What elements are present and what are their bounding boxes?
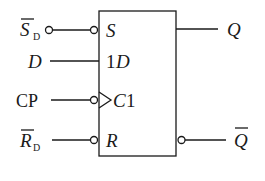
- output-q-label: Q: [227, 19, 241, 40]
- input-d-label: D: [27, 51, 42, 72]
- clock-triangle-icon: [99, 92, 111, 108]
- pin-c1-label: C: [113, 90, 126, 111]
- input-rd-subscript: D: [33, 142, 40, 153]
- input-rd-inversion-bubble: [91, 137, 98, 144]
- input-sd: S D S: [20, 19, 116, 42]
- pin-c1-suffix: 1: [126, 90, 136, 111]
- input-rd-label: R: [19, 130, 32, 151]
- input-rd: R D R: [19, 130, 118, 153]
- input-sd-subscript: D: [33, 31, 40, 42]
- d-flip-flop-diagram: S D S D 1 D CP C 1 R D R Q Q: [0, 0, 265, 181]
- output-qn-inversion-bubble: [178, 137, 185, 144]
- input-sd-inversion-bubble: [91, 27, 98, 34]
- pin-1d-prefix: 1: [106, 51, 116, 72]
- input-sd-terminal-circle: [46, 27, 53, 34]
- pin-r-label: R: [105, 130, 118, 151]
- pin-s-label: S: [106, 20, 116, 41]
- input-d: D 1 D: [27, 51, 130, 72]
- output-qn: Q: [178, 128, 248, 151]
- input-cp-inversion-bubble: [91, 97, 98, 104]
- pin-1d-label: D: [115, 51, 130, 72]
- output-qn-label: Q: [234, 130, 248, 151]
- input-sd-label: S: [20, 19, 30, 40]
- input-cp-label: CP: [16, 91, 38, 111]
- input-cp: CP C 1: [16, 90, 136, 111]
- output-q: Q: [176, 19, 241, 40]
